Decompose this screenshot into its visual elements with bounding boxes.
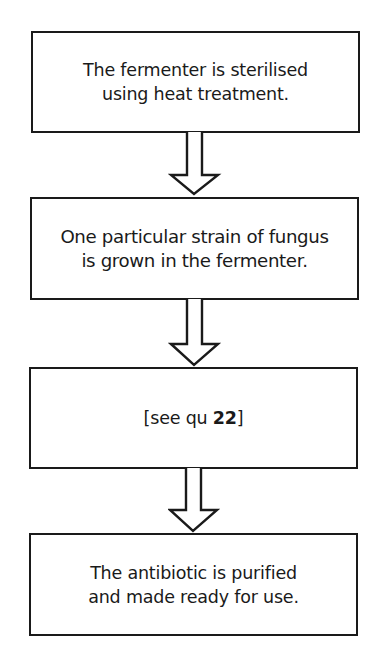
question-number: 22 xyxy=(213,408,237,428)
flowchart-step-2: One particular strain of fungus is grown… xyxy=(30,197,359,300)
step-3-text-prefix: [see qu xyxy=(144,408,213,428)
down-arrow-icon xyxy=(168,468,222,533)
down-arrow-icon xyxy=(168,132,222,196)
step-4-text: The antibiotic is purified and made read… xyxy=(88,561,299,609)
step-3-text-suffix: ] xyxy=(237,408,244,428)
flowchart-step-4: The antibiotic is purified and made read… xyxy=(29,533,358,636)
flowchart-step-1: The fermenter is sterilised using heat t… xyxy=(31,31,360,133)
step-3-text: [see qu 22] xyxy=(144,406,244,430)
down-arrow-icon xyxy=(168,299,222,367)
step-1-text: The fermenter is sterilised using heat t… xyxy=(83,58,308,106)
flowchart-step-3: [see qu 22] xyxy=(29,367,358,469)
step-2-text: One particular strain of fungus is grown… xyxy=(60,225,328,273)
